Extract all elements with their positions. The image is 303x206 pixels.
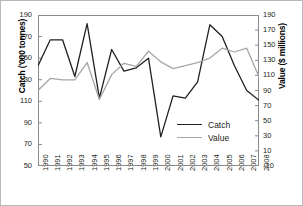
y-axis-left-tick-label: 170: [10, 33, 32, 41]
legend-swatch-catch: [177, 124, 202, 125]
y-axis-right-tick-label: 70: [263, 102, 287, 110]
y-axis-left-tick-label: 150: [10, 54, 32, 62]
y-axis-left-tick-label: 90: [10, 119, 32, 127]
y-axis-right-tick-label: 130: [263, 56, 287, 64]
y-axis-right-tick-label: 110: [263, 71, 287, 79]
y-axis-left-tick-label: 190: [10, 11, 32, 19]
y-axis-left-tick-label: 50: [10, 162, 32, 170]
y-axis-right-tick-label: 10: [263, 147, 287, 155]
x-axis-tick-label: 2008: [263, 154, 271, 171]
y-axis-left-tick-label: 130: [10, 76, 32, 84]
legend-swatch-value: [177, 137, 202, 138]
legend-item: Value: [177, 131, 230, 144]
chart-figure: Catch ('000 tonnes) Value ($ millions) 5…: [0, 0, 303, 206]
y-axis-right-tick-label: 30: [263, 132, 287, 140]
chart-legend: CatchValue: [177, 118, 230, 144]
series-line-value: [38, 48, 259, 99]
y-axis-right-tick-label: 90: [263, 87, 287, 95]
y-axis-left-tick-label: 110: [10, 97, 32, 105]
legend-item: Catch: [177, 118, 230, 131]
legend-label-value: Value: [208, 133, 229, 143]
legend-label-catch: Catch: [208, 120, 230, 130]
y-axis-left-tick-label: 70: [10, 140, 32, 148]
y-axis-right-tick-label: 150: [263, 41, 287, 49]
y-axis-right-tick-label: 170: [263, 26, 287, 34]
y-axis-right-tick-label: 190: [263, 11, 287, 19]
y-axis-right-tick-label: 50: [263, 117, 287, 125]
